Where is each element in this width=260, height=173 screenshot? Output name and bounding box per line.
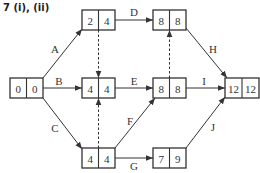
activity-labels: A B C D E F G H I J	[51, 6, 217, 172]
early-time: 8	[159, 15, 165, 27]
late-time: 8	[175, 15, 181, 27]
event-node-5: 8 8	[153, 10, 186, 30]
early-time: 4	[88, 153, 94, 165]
activity-c-arrow	[43, 98, 82, 149]
event-node-4: 4 4	[82, 148, 115, 168]
early-time: 12	[228, 83, 239, 95]
late-time: 4	[104, 15, 110, 27]
activity-network: A B C D E F G H I J 0 0 2 4 4 4 4 4 8 8 …	[0, 0, 260, 173]
activity-a-arrow	[43, 29, 82, 78]
event-node-1: 0 0	[10, 78, 43, 98]
activity-label-g: G	[130, 160, 138, 172]
event-node-3: 4 4	[82, 78, 115, 98]
late-time: 9	[175, 153, 181, 165]
late-time: 4	[104, 83, 110, 95]
activity-label-j: J	[211, 121, 216, 133]
event-node-6: 8 8	[153, 78, 186, 98]
early-time: 7	[159, 153, 165, 165]
early-time: 2	[88, 15, 94, 27]
activity-label-e: E	[131, 75, 138, 87]
activity-label-a: A	[51, 43, 59, 55]
early-time: 0	[16, 83, 22, 95]
activity-label-c: C	[51, 122, 58, 134]
late-time: 8	[175, 83, 181, 95]
activity-arrows	[43, 20, 227, 158]
late-time: 12	[245, 83, 256, 95]
event-node-7: 7 9	[153, 148, 186, 168]
early-time: 4	[88, 83, 94, 95]
activity-j-arrow	[186, 97, 225, 148]
late-time: 4	[104, 153, 110, 165]
activity-label-i: I	[202, 75, 206, 87]
activity-h-arrow	[186, 28, 227, 78]
activity-label-d: D	[130, 6, 138, 18]
activity-label-f: F	[127, 115, 133, 127]
late-time: 0	[32, 83, 38, 95]
activity-label-h: H	[209, 43, 217, 55]
early-time: 8	[159, 83, 165, 95]
event-node-2: 2 4	[82, 10, 115, 30]
event-node-8: 12 12	[225, 78, 259, 98]
activity-f-arrow	[115, 98, 155, 148]
activity-label-b: B	[55, 75, 62, 87]
